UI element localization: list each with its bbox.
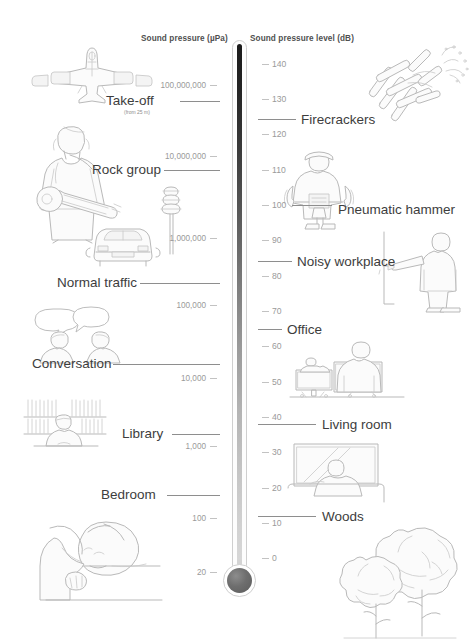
connector-line-firecrackers (258, 119, 296, 120)
tick-mark-left (210, 378, 217, 379)
connector-line-library (172, 434, 220, 435)
tick-mark-left (210, 85, 217, 86)
thermometer-mercury (237, 44, 242, 571)
left-tick-label: 20 (66, 568, 206, 577)
tv-living-room-illustration (286, 440, 386, 502)
sleeping-person-illustration (22, 508, 174, 608)
right-tick-label: 110 (272, 165, 286, 175)
right-tick-label: 70 (272, 306, 282, 316)
tick-mark-right (262, 558, 269, 559)
tick-mark-left (210, 446, 217, 447)
connector-line-rock-group (164, 170, 220, 171)
label-rock-group: Rock group (92, 162, 161, 177)
left-tick-label: 100,000,000 (66, 81, 206, 90)
label-noisy-workplace: Noisy workplace (297, 254, 395, 269)
right-tick-label: 140 (272, 59, 286, 69)
right-tick-label: 120 (272, 129, 286, 139)
trees-illustration (334, 522, 464, 642)
label-take-off-sublabel: (from 25 m) (124, 109, 150, 115)
right-tick-label: 80 (272, 271, 282, 281)
connector-line-bedroom (167, 495, 220, 496)
left-tick-label: 1,000 (66, 442, 206, 451)
tick-mark-right (262, 346, 269, 347)
tick-mark-right (262, 488, 269, 489)
right-tick-label: 100 (272, 200, 286, 210)
tick-mark-right (262, 240, 269, 241)
right-tick-label: 40 (272, 412, 282, 422)
tick-mark-right (262, 205, 269, 206)
right-tick-label: 60 (272, 341, 282, 351)
label-woods: Woods (322, 509, 364, 524)
tick-mark-right (262, 311, 269, 312)
connector-line-normal-traffic (140, 283, 220, 284)
left-tick-label: 100 (66, 514, 206, 523)
left-tick-label: 10,000,000 (66, 152, 206, 161)
right-tick-label: 50 (272, 377, 282, 387)
label-normal-traffic: Normal traffic (57, 275, 137, 290)
tick-mark-left (210, 156, 217, 157)
car-illustration (82, 222, 164, 270)
connector-line-woods (258, 516, 316, 517)
tick-mark-right (262, 417, 269, 418)
left-tick-label: 10,000 (66, 374, 206, 383)
connector-line-office (258, 329, 282, 330)
tick-mark-left (210, 238, 217, 239)
right-axis-title: Sound pressure level (dB) (250, 34, 354, 43)
office-desk-illustration (288, 340, 406, 402)
tick-mark-right (262, 452, 269, 453)
tick-mark-right (262, 64, 269, 65)
label-pneumatic-hammer: Pneumatic hammer (338, 202, 455, 217)
left-tick-label: 1,000,000 (66, 234, 206, 243)
traffic-light-illustration (158, 185, 184, 255)
label-bedroom: Bedroom (101, 487, 156, 502)
right-tick-label: 30 (272, 447, 282, 457)
infographic-canvas: Sound pressure (µPa) Sound pressure leve… (0, 0, 473, 644)
label-conversation: Conversation (32, 356, 112, 371)
thermometer-bulb (227, 568, 252, 593)
left-tick-label: 100,000 (66, 301, 206, 310)
label-office: Office (287, 322, 322, 337)
connector-line-conversation (113, 364, 220, 365)
right-tick-label: 10 (272, 518, 282, 528)
tick-mark-right (262, 382, 269, 383)
tick-mark-right (262, 99, 269, 100)
worker-drilling-illustration (378, 230, 468, 312)
tick-mark-left (210, 305, 217, 306)
right-tick-label: 20 (272, 483, 282, 493)
conversation-illustration (25, 305, 135, 363)
right-tick-label: 0 (272, 553, 277, 563)
label-library: Library (122, 426, 163, 441)
tick-mark-left (210, 572, 217, 573)
connector-line-pneumatic-hammer (292, 205, 332, 206)
pneumatic-hammer-illustration (283, 150, 355, 232)
label-take-off: Take-off (106, 93, 154, 108)
tick-mark-left (210, 518, 217, 519)
connector-line-living-room (258, 424, 316, 425)
label-firecrackers: Firecrackers (301, 112, 375, 127)
tick-mark-right (262, 523, 269, 524)
right-tick-label: 90 (272, 235, 282, 245)
tick-mark-right (262, 170, 269, 171)
right-tick-label: 130 (272, 94, 286, 104)
thermometer-scale (218, 40, 260, 615)
tick-mark-right (262, 134, 269, 135)
label-living-room: Living room (322, 417, 392, 432)
connector-line-noisy-workplace (258, 261, 292, 262)
tick-mark-right (262, 276, 269, 277)
connector-line-takeoff (180, 101, 220, 102)
